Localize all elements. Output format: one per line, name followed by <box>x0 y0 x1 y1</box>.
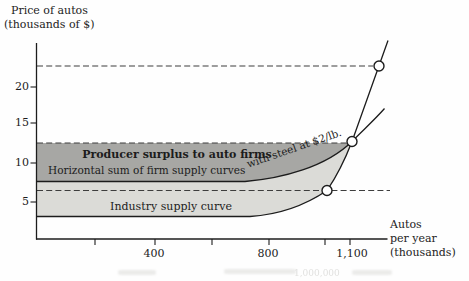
y-axis-title-line1: Price of autos <box>11 4 88 17</box>
industry-supply-label: Industry supply curve <box>80 200 262 213</box>
print-bleed-smudge <box>352 270 392 275</box>
y-tick-label-5: 5 <box>2 195 29 208</box>
horizontal-sum-label: Horizontal sum of firm supply curves <box>48 164 245 177</box>
y-tick-label-15: 15 <box>2 116 29 129</box>
y-tick-label-10: 10 <box>2 156 29 169</box>
print-bleed-text: 1,000,000 <box>294 268 340 278</box>
horizontal-sum-curve-extension <box>352 109 385 142</box>
x-axis-ticks <box>95 239 350 245</box>
y-tick-label-20: 20 <box>2 80 29 93</box>
y-axis-ticks <box>31 87 37 202</box>
marker-point-1000-6.5 <box>322 186 332 196</box>
marker-point-1200-22.5 <box>374 61 384 71</box>
x-axis-title-line1: Autos <box>390 218 422 231</box>
x-axis-title-line3: (thousands) <box>390 246 456 259</box>
x-tick-label-800: 800 <box>248 247 288 260</box>
print-bleed-smudge <box>118 270 156 275</box>
x-tick-label-1100: 1,100 <box>330 247 374 260</box>
y-axis-title-line2: (thousands of $) <box>4 18 94 31</box>
x-tick-label-400: 400 <box>134 247 174 260</box>
textbook-figure: Price of autos (thousands of $) 20 15 10… <box>0 0 469 281</box>
print-bleed-smudge <box>224 269 296 274</box>
x-axis-title-line2: per year <box>390 232 437 245</box>
marker-point-1100-12.5 <box>347 137 357 147</box>
